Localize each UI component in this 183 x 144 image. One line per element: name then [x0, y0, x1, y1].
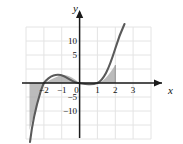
x-tick-label-2: 2: [110, 85, 120, 95]
x-tick-label-neg2: −2: [37, 85, 51, 95]
graph-figure: y x −2 −1 0 1 2 3 10 5 −5 −10: [0, 0, 183, 144]
x-tick-label-1: 1: [92, 85, 102, 95]
y-tick-label-neg5: −5: [60, 92, 77, 102]
cartesian-plot: [0, 0, 183, 144]
y-tick-label-5: 5: [62, 50, 77, 60]
y-tick-label-10: 10: [62, 36, 77, 46]
y-tick-label-neg10: −10: [59, 106, 77, 116]
plot-background: [0, 0, 183, 144]
x-tick-label-3: 3: [128, 85, 138, 95]
x-axis-label: x: [168, 84, 173, 96]
y-axis-label: y: [73, 2, 78, 14]
